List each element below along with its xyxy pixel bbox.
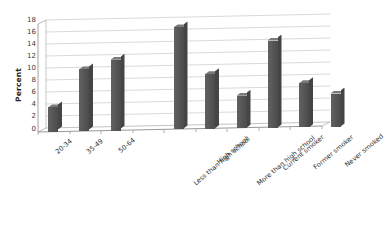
bar-side-35-49 — [89, 63, 93, 129]
bar-more-than-high-school — [237, 96, 247, 128]
bar-20-34 — [48, 107, 58, 131]
bar-former-smoker — [299, 83, 309, 127]
bar-side-current-smoker — [278, 35, 282, 128]
bar-side-less-than-high-school — [184, 21, 188, 128]
bar-high-school — [205, 74, 215, 128]
y-tick-14: 14 — [22, 41, 36, 48]
bar-side-50-64 — [121, 54, 125, 129]
bar-35-49 — [79, 69, 89, 131]
y-tick-0: 0 — [22, 126, 36, 133]
bar-side-more-than-high-school — [247, 90, 251, 128]
figure-caption — [0, 218, 340, 225]
y-tick-10: 10 — [22, 65, 36, 72]
bar-current-smoker — [268, 41, 278, 128]
bar-side-20-34 — [58, 101, 62, 129]
bar-side-former-smoker — [309, 77, 313, 127]
y-tick-6: 6 — [22, 89, 36, 96]
y-tick-16: 16 — [22, 29, 36, 36]
y-tick-8: 8 — [22, 77, 36, 84]
y-tick-2: 2 — [22, 113, 36, 120]
bar-50-64 — [111, 60, 121, 131]
bar-side-high-school — [215, 68, 219, 128]
y-tick-4: 4 — [22, 101, 36, 108]
bar-side-never-smoked — [341, 88, 345, 127]
y-tick-12: 12 — [22, 53, 36, 60]
bar-less-than-high-school — [174, 27, 184, 129]
bar-never-smoked — [331, 94, 341, 127]
y-tick-18: 18 — [22, 17, 36, 24]
